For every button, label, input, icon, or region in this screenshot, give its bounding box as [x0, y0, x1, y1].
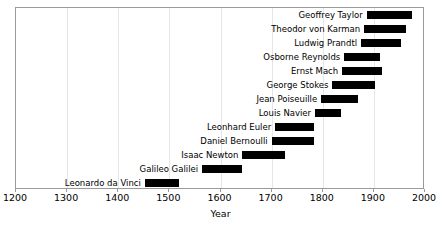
bar-label: Isaac Newton [16, 148, 242, 162]
bar-label: Geoffrey Taylor [16, 8, 367, 22]
bar-row: Daniel Bernoulli [16, 134, 423, 148]
bar-label: Leonardo da Vinci [16, 176, 145, 190]
x-tick-label: 2000 [404, 192, 441, 203]
timeline-bar [321, 95, 358, 103]
timeline-bar [315, 109, 341, 117]
timeline-bar [364, 25, 406, 33]
bar-row: Isaac Newton [16, 148, 423, 162]
timeline-bar [242, 151, 285, 159]
x-tick-label: 1500 [148, 192, 188, 203]
bar-row: Galileo Galilei [16, 162, 423, 176]
x-tick-label: 1600 [200, 192, 240, 203]
bar-row: Geoffrey Taylor [16, 8, 423, 22]
timeline-bar [272, 137, 314, 145]
bar-label: Theodor von Karman [16, 22, 364, 36]
x-tick-label: 1700 [251, 192, 291, 203]
bar-row: Theodor von Karman [16, 22, 423, 36]
bar-label: Daniel Bernoulli [16, 134, 272, 148]
bar-row: Ludwig Prandtl [16, 36, 423, 50]
bar-row: Jean Poiseuille [16, 92, 423, 106]
x-tick-label: 1900 [353, 192, 393, 203]
bar-label: Ludwig Prandtl [16, 36, 361, 50]
timeline-bar [145, 179, 179, 187]
timeline-bar [202, 165, 242, 173]
bar-row: Louis Navier [16, 106, 423, 120]
bar-row: Ernst Mach [16, 64, 423, 78]
x-tick-label: 1300 [46, 192, 86, 203]
bar-label: Louis Navier [16, 106, 315, 120]
x-axis-title: Year [0, 208, 441, 219]
chart-figure: Geoffrey TaylorTheodor von KarmanLudwig … [0, 0, 441, 226]
x-tick-label: 1800 [302, 192, 342, 203]
bar-label: Osborne Reynolds [16, 50, 344, 64]
bar-row: Osborne Reynolds [16, 50, 423, 64]
bar-label: Ernst Mach [16, 64, 342, 78]
timeline-bar [344, 53, 380, 61]
x-tick-label: 1200 [0, 192, 35, 203]
x-tick-label: 1400 [97, 192, 137, 203]
bar-row: Leonhard Euler [16, 120, 423, 134]
plot-area: Geoffrey TaylorTheodor von KarmanLudwig … [15, 7, 424, 189]
bar-label: George Stokes [16, 78, 332, 92]
timeline-bar [361, 39, 401, 47]
timeline-bar [275, 123, 314, 131]
bar-label: Galileo Galilei [16, 162, 202, 176]
bar-label: Leonhard Euler [16, 120, 275, 134]
timeline-bar [332, 81, 375, 89]
timeline-bar [367, 11, 413, 19]
bar-row: Leonardo da Vinci [16, 176, 423, 190]
timeline-bar [342, 67, 382, 75]
bar-row: George Stokes [16, 78, 423, 92]
bar-label: Jean Poiseuille [16, 92, 321, 106]
